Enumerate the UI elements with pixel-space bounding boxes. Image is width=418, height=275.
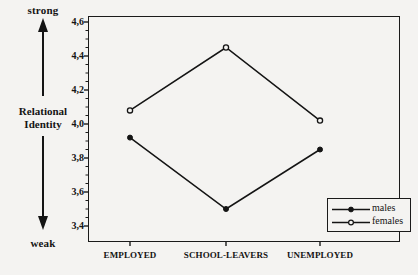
data-point-females-EMPLOYED [127, 108, 132, 113]
data-point-females-SCHOOL-LEAVERS [223, 45, 228, 50]
chart-figure: strong Relational Identity weak 4,64,44,… [0, 0, 418, 275]
legend-label-females: females [372, 214, 403, 228]
plot-canvas [0, 0, 418, 275]
data-point-females-UNEMPLOYED [317, 118, 322, 123]
series-line-females [130, 48, 320, 121]
legend-marker-open-circle-icon [331, 215, 371, 230]
x-tick-label: UNEMPLOYED [287, 250, 353, 260]
legend-item-females: females [328, 215, 412, 230]
x-axis-tick-labels: EMPLOYEDSCHOOL-LEAVERSUNEMPLOYED [88, 250, 400, 270]
legend-label-males: males [372, 201, 395, 215]
data-point-males-EMPLOYED [128, 135, 133, 140]
x-tick-label: EMPLOYED [104, 250, 157, 260]
x-tick-label: SCHOOL-LEAVERS [184, 250, 268, 260]
data-point-males-SCHOOL-LEAVERS [224, 207, 229, 212]
data-point-males-UNEMPLOYED [318, 147, 323, 152]
chart-legend: males females [327, 198, 411, 232]
series-line-males [130, 138, 320, 209]
